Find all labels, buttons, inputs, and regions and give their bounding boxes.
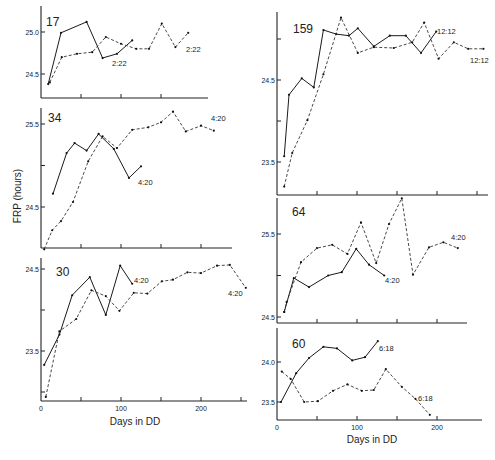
y-tick-label: 23.5 [25,348,39,355]
data-point [306,119,308,121]
data-point [327,274,329,276]
x-tick-label: 200 [195,405,207,412]
data-point [200,125,202,127]
data-point [43,364,45,366]
data-point [357,27,359,29]
series-end-label: 4:20 [228,289,243,298]
data-point [295,372,297,374]
data-point [52,193,54,195]
series-line-dashed [284,198,458,312]
series-end-label: 2:22 [186,45,201,54]
data-point [113,148,115,150]
data-point [442,241,444,243]
data-point [43,248,45,250]
panel-30: 23.524.50100200304:204:20 [25,258,247,412]
data-point [71,294,73,296]
series-line-solid [48,22,132,84]
data-point [186,271,188,273]
y-tick-label: 23.5 [261,159,275,166]
data-point [414,398,416,400]
figure: 24.525.0172:222:2224.525.5344:204:2023.5… [0,0,495,460]
data-point [131,129,133,131]
panel-label: 17 [46,15,60,29]
data-point [322,73,324,75]
data-point [401,197,403,199]
y-tick-label: 24.5 [261,314,275,321]
panel-label: 64 [292,205,306,219]
panel-60: 23.524.00100200606:186:18 [261,328,482,431]
data-point [58,330,60,332]
data-point [135,48,137,50]
data-point [172,279,174,281]
data-point [120,43,122,45]
data-point [45,396,47,398]
data-point [389,35,391,37]
data-point [172,110,174,112]
panels: 24.525.0172:222:2224.525.5344:204:2023.5… [25,6,488,431]
data-point [351,359,353,361]
panel-159: 23.524.515912:1212:12 [261,12,488,195]
data-point [308,286,310,288]
data-point [90,289,92,291]
data-point [187,32,189,34]
data-point [373,389,375,391]
data-point [428,246,430,248]
series-line-solid [284,28,436,156]
data-point [61,56,63,58]
data-point [200,272,202,274]
series-line-dashed [50,24,188,83]
data-point [377,340,379,342]
data-point [361,390,363,392]
data-point [357,52,359,54]
data-point [118,310,120,312]
panel-17: 24.525.0172:222:22 [25,6,208,98]
series-line-solid [44,266,132,365]
data-point [429,414,431,416]
data-point [161,23,163,25]
data-point [341,271,343,273]
data-point [332,390,334,392]
data-point [161,280,163,282]
data-point [98,133,100,135]
data-point [313,86,315,88]
data-point [301,77,303,79]
data-point [281,371,283,373]
y-axis-label: FRP (hours) [12,169,23,223]
y-tick-label: 24.5 [261,77,275,84]
data-point [131,39,133,41]
series-line-dashed [44,112,214,250]
data-point [388,223,390,225]
data-point [317,400,319,402]
data-point [119,265,121,267]
data-point [457,247,459,249]
panel-label: 30 [56,265,70,279]
y-tick-label: 25.5 [25,121,39,128]
data-point [412,274,414,276]
data-point [213,130,215,132]
series-end-label: 4:20 [138,178,153,187]
data-point [147,126,149,128]
chart-canvas: 24.525.0172:222:2224.525.5344:204:2023.5… [0,0,495,460]
series-end-label: 4:20 [451,233,466,242]
panel-64: 24.525.5644:204:20 [261,197,467,323]
data-point [286,301,288,303]
panel-label: 159 [293,22,313,36]
series-end-label: 4:20 [134,276,149,285]
panel-label: 34 [48,111,62,125]
data-point [116,53,118,55]
y-tick-label: 24.5 [25,266,39,273]
data-point [60,32,62,34]
data-point [140,165,142,167]
data-point [322,346,324,348]
data-point [131,283,133,285]
data-point [293,277,295,279]
data-point [185,130,187,132]
data-point [116,147,118,149]
series-end-label: 6:18 [379,344,394,353]
data-point [66,152,68,154]
x-axis-label-left: Days in DD [110,416,161,427]
series-line-solid [284,249,384,312]
data-point [128,177,130,179]
data-point [146,293,148,295]
data-point [60,220,62,222]
